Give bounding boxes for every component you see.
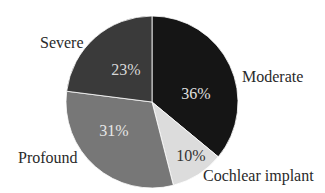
- pie-slice-severe: [67, 16, 152, 102]
- pct-profound: 31%: [99, 122, 128, 140]
- label-cochlear-implant: Cochlear implant: [203, 167, 314, 185]
- pct-moderate: 36%: [181, 85, 210, 103]
- label-severe: Severe: [40, 34, 84, 52]
- label-moderate: Moderate: [242, 68, 303, 86]
- pct-severe: 23%: [111, 61, 140, 79]
- label-profound: Profound: [18, 149, 78, 167]
- pct-cochlear-implant: 10%: [176, 147, 205, 165]
